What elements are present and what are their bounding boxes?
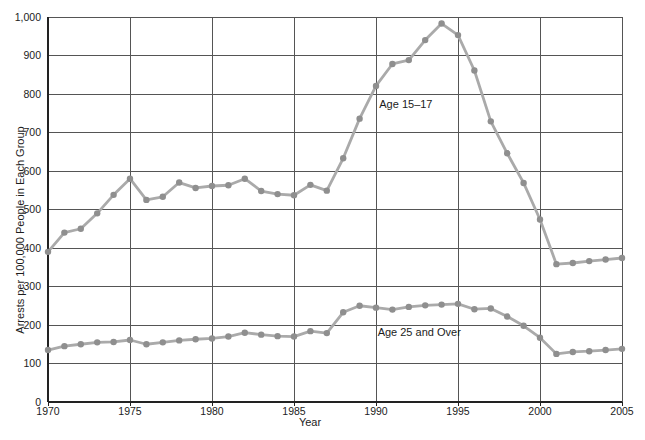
data-point-age-25-and-over [160, 339, 166, 345]
data-point-age-25-and-over [45, 347, 51, 353]
data-point-age-15-17 [488, 118, 494, 124]
y-tick-label: 400 [23, 242, 41, 254]
data-point-age-25-and-over [373, 304, 379, 310]
data-point-age-15-17 [422, 37, 428, 43]
data-point-age-15-17 [45, 249, 51, 255]
data-point-age-25-and-over [324, 330, 330, 336]
y-tick-label: 900 [23, 49, 41, 61]
data-point-age-15-17 [110, 192, 116, 198]
data-point-age-15-17 [274, 191, 280, 197]
data-point-age-25-and-over [258, 331, 264, 337]
data-point-age-15-17 [192, 185, 198, 191]
data-point-age-25-and-over [78, 341, 84, 347]
data-point-age-15-17 [324, 187, 330, 193]
data-point-age-15-17 [242, 176, 248, 182]
data-point-age-25-and-over [192, 336, 198, 342]
data-point-age-15-17 [389, 61, 395, 67]
x-tick-label: 1975 [118, 405, 142, 417]
y-tick-label: 800 [23, 88, 41, 100]
data-point-age-25-and-over [471, 306, 477, 312]
x-tick-label: 1990 [364, 405, 388, 417]
data-point-age-15-17 [291, 192, 297, 198]
data-point-age-15-17 [438, 20, 444, 26]
y-tick-label: 600 [23, 165, 41, 177]
x-tick-label: 2005 [610, 405, 634, 417]
series-line-age-25-and-over [48, 304, 622, 354]
data-point-age-15-17 [619, 255, 625, 261]
data-point-age-25-and-over [274, 333, 280, 339]
data-point-age-25-and-over [291, 333, 297, 339]
data-point-age-15-17 [127, 176, 133, 182]
data-point-age-25-and-over [389, 306, 395, 312]
data-point-age-25-and-over [143, 341, 149, 347]
data-point-age-15-17 [553, 261, 559, 267]
data-point-age-25-and-over [307, 328, 313, 334]
data-point-age-25-and-over [225, 333, 231, 339]
data-point-age-25-and-over [340, 309, 346, 315]
x-tick-label: 2000 [528, 405, 552, 417]
data-point-age-15-17 [356, 115, 362, 121]
y-axis-title: Arrests per 100,000 People in Each Group [14, 126, 26, 333]
x-tick-label: 1995 [446, 405, 470, 417]
data-point-age-25-and-over [127, 337, 133, 343]
data-point-age-25-and-over [455, 301, 461, 307]
data-point-age-25-and-over [356, 303, 362, 309]
data-point-age-15-17 [225, 182, 231, 188]
y-tick-label: 500 [23, 203, 41, 215]
data-point-age-15-17 [78, 226, 84, 232]
data-point-age-15-17 [471, 67, 477, 73]
data-point-age-15-17 [455, 32, 461, 38]
data-point-age-15-17 [307, 182, 313, 188]
data-point-age-25-and-over [176, 337, 182, 343]
chart-canvas: 01002003004005006007008009001,0001970197… [0, 0, 645, 440]
data-point-age-15-17 [570, 260, 576, 266]
data-point-age-15-17 [258, 188, 264, 194]
x-axis-title: Year [299, 416, 321, 428]
data-point-age-15-17 [160, 194, 166, 200]
data-point-age-15-17 [406, 57, 412, 63]
data-point-age-15-17 [520, 180, 526, 186]
data-point-age-15-17 [602, 256, 608, 262]
series-label-age-25-and-over: Age 25 and Over [378, 326, 462, 338]
data-point-age-25-and-over [209, 335, 215, 341]
data-point-age-25-and-over [94, 339, 100, 345]
data-point-age-15-17 [373, 83, 379, 89]
data-point-age-25-and-over [438, 301, 444, 307]
data-point-age-15-17 [537, 216, 543, 222]
y-tick-label: 300 [23, 280, 41, 292]
y-tick-label: 1,000 [15, 11, 41, 23]
data-point-age-15-17 [340, 155, 346, 161]
data-point-age-25-and-over [488, 305, 494, 311]
arrests-by-age-line-chart: 01002003004005006007008009001,0001970197… [0, 0, 645, 440]
data-point-age-25-and-over [110, 339, 116, 345]
data-point-age-25-and-over [553, 351, 559, 357]
data-point-age-15-17 [61, 229, 67, 235]
x-tick-label: 1980 [200, 405, 224, 417]
y-tick-label: 700 [23, 126, 41, 138]
data-point-age-15-17 [209, 183, 215, 189]
data-point-age-15-17 [586, 258, 592, 264]
data-point-age-25-and-over [242, 330, 248, 336]
x-tick-label: 1970 [36, 405, 60, 417]
data-point-age-15-17 [143, 197, 149, 203]
data-point-age-25-and-over [504, 313, 510, 319]
series-label-age-15-17: Age 15–17 [379, 98, 432, 110]
series-line-age-15-17 [48, 24, 622, 265]
data-point-age-25-and-over [570, 349, 576, 355]
data-point-age-25-and-over [422, 302, 428, 308]
data-point-age-25-and-over [537, 335, 543, 341]
y-tick-label: 100 [23, 357, 41, 369]
data-point-age-25-and-over [520, 323, 526, 329]
data-point-age-15-17 [176, 179, 182, 185]
data-point-age-25-and-over [61, 343, 67, 349]
data-point-age-25-and-over [619, 346, 625, 352]
data-point-age-15-17 [94, 210, 100, 216]
y-tick-label: 200 [23, 319, 41, 331]
data-point-age-15-17 [504, 150, 510, 156]
data-point-age-25-and-over [602, 347, 608, 353]
data-point-age-25-and-over [586, 348, 592, 354]
data-point-age-25-and-over [406, 304, 412, 310]
